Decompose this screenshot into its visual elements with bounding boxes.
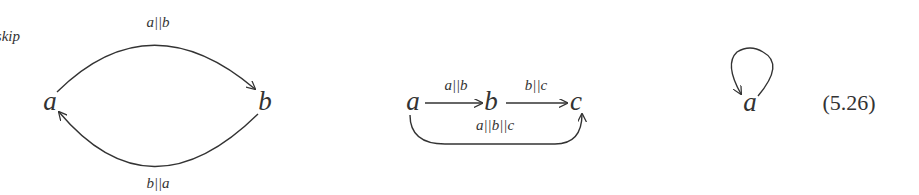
edge-a-to-b <box>57 45 255 92</box>
edge-label-b-a: b||a <box>146 175 169 191</box>
diagram-1: a||b b||a a b <box>43 14 272 191</box>
diagram-2: a b c a||b b||c a||b||c <box>406 77 582 144</box>
node-a: a <box>743 87 757 117</box>
edge-b-to-a <box>59 112 258 167</box>
edge-label-loop: a||skip <box>0 28 20 44</box>
edge-label-a-b: a||b <box>146 14 170 30</box>
node-b: b <box>258 86 272 116</box>
equation-number: (5.26) <box>822 90 875 115</box>
edge-label-b-c: b||c <box>525 77 548 93</box>
node-b: b <box>484 86 498 116</box>
node-c: c <box>570 86 582 116</box>
node-a: a <box>43 86 57 116</box>
edge-label-a-b: a||b <box>444 77 468 93</box>
diagram-canvas: a||b b||a a b a b c a||b b||c a||b||c a|… <box>0 0 919 195</box>
node-a: a <box>406 86 420 116</box>
edge-label-a-b-c: a||b||c <box>476 117 514 133</box>
